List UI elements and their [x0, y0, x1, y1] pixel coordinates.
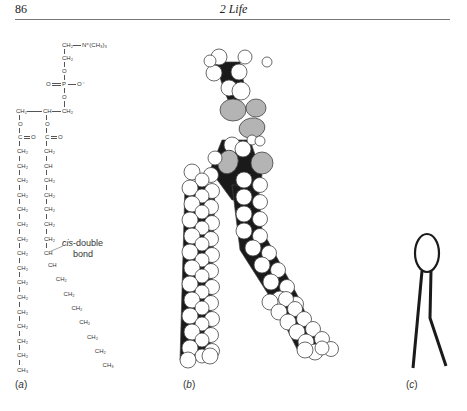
panel-label-c: (c)	[406, 379, 418, 390]
hydrophobic-tail-right	[430, 271, 446, 366]
hydrophobic-tail-left	[413, 271, 422, 368]
polar-head-ellipse	[415, 234, 439, 272]
panel-c-schematic-lipid	[0, 0, 467, 411]
